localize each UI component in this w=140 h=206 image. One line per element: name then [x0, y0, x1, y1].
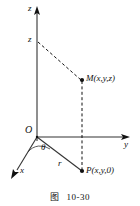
point-p-label: P(x,y,0): [86, 166, 114, 175]
y-axis-label: y: [124, 140, 128, 149]
coordinate-diagram: [0, 0, 140, 206]
caption-number: 10-30: [67, 192, 91, 202]
origin-marker: [36, 136, 38, 138]
x-axis-label: x: [20, 166, 24, 175]
x-axis-arrowhead: [11, 169, 19, 179]
figure-caption: 图10-30: [0, 190, 140, 203]
origin-label: O: [25, 125, 32, 135]
figure-container: z z O y x θ r M(x,y,z) P(x,y,0) 图10-30: [0, 0, 140, 206]
dashed-z-to-m: [38, 42, 81, 80]
z-tick-label: z: [28, 35, 32, 44]
z-axis-label: z: [28, 4, 32, 13]
point-m-label: M(x,y,z): [86, 74, 115, 83]
caption-label: 图: [50, 192, 60, 202]
point-m-marker: [80, 78, 84, 82]
point-p-marker: [80, 169, 84, 173]
theta-label: θ: [41, 143, 45, 152]
radius-label: r: [58, 159, 62, 168]
